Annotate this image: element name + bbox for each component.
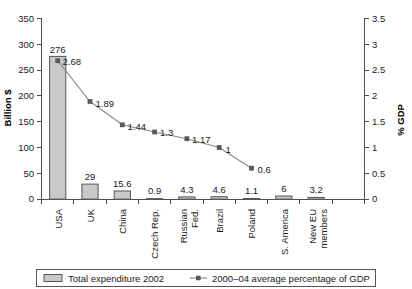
chart-figure: 350 300 250 200 150 100 50 0 Billion $ 3… [0,0,412,289]
left-axis-tick-200: 200 [18,90,34,101]
line-point-brazil[interactable] [217,145,222,150]
left-axis-tick-50: 50 [23,168,34,179]
line-label-russian-fed: 1.17 [192,134,211,145]
left-axis-tick-100: 100 [18,142,34,153]
bar-label-uk: 29 [85,171,96,182]
right-axis-tick-0: 0 [372,193,377,204]
bar-label-brazil: 4.6 [213,184,226,195]
legend-label-gdp-percentage[interactable]: 2000–04 average percentage of GDP [212,273,370,284]
line-label-usa: 2.68 [63,56,82,67]
left-axis-tick-150: 150 [18,116,34,127]
category-label-russian-fed-line1: Russian [178,209,189,243]
bar-czech-rep[interactable] [147,199,163,200]
left-axis-tick-300: 300 [18,39,34,50]
bar-label-new-eu-members: 3.2 [309,184,322,195]
right-axis-tick-1: 1 [372,142,377,153]
bar-label-s-america: 6 [281,183,286,194]
bar-label-russian-fed: 4.3 [180,184,193,195]
right-axis-tick-0-5: 0.5 [372,168,385,179]
category-label-new-eu-members-line1: New EU [307,209,318,244]
line-point-poland[interactable] [249,166,254,171]
right-axis-tick-2: 2 [372,90,377,101]
line-point-uk[interactable] [88,99,93,104]
bar-brazil[interactable] [211,197,227,199]
right-axis-tick-1-5: 1.5 [372,116,385,127]
right-axis-tick-3-5: 3.5 [372,13,385,24]
bar-label-usa: 276 [50,44,66,55]
bar-label-china: 15.6 [113,178,132,189]
bar-new-eu-members[interactable] [308,197,324,199]
legend-swatch-bar-icon [44,275,62,282]
line-point-czech-rep[interactable] [152,130,157,135]
category-label-poland: Poland [246,209,257,239]
bar-china[interactable] [114,191,130,199]
category-label-china: China [117,208,128,234]
right-axis-tick-2-5: 2.5 [372,64,385,75]
line-label-brazil: 1 [226,144,231,155]
bar-poland[interactable] [243,199,259,200]
chart-svg: 350 300 250 200 150 100 50 0 Billion $ 3… [0,0,412,289]
left-axis-tick-0: 0 [29,193,34,204]
right-axis-title: % GDP [395,104,406,136]
line-label-poland: 0.6 [258,164,271,175]
left-axis-tick-250: 250 [18,64,34,75]
bar-uk[interactable] [82,184,98,199]
line-label-czech-rep: 1.3 [160,127,173,138]
bar-usa[interactable] [50,56,66,199]
left-axis-tick-350: 350 [18,13,34,24]
bar-russian-fed[interactable] [179,197,195,199]
line-point-usa[interactable] [55,58,60,63]
line-label-china: 1.44 [128,121,147,132]
category-label-brazil: Brazil [214,209,225,233]
category-label-s-america: S. America [279,208,290,255]
line-label-uk: 1.89 [96,98,115,109]
legend-label-total-expenditure[interactable]: Total expenditure 2002 [68,273,164,284]
left-axis-title: Billion $ [2,89,13,127]
bar-label-czech-rep: 0.9 [148,185,161,196]
line-point-china[interactable] [120,122,125,127]
bar-label-poland: 1.1 [245,185,258,196]
category-label-uk: UK [85,208,96,222]
category-label-usa: USA [53,208,64,228]
category-label-czech-rep: Czech Rep. [149,209,160,259]
line-point-russian-fed[interactable] [185,136,190,141]
category-label-new-eu-members-line2: members [318,209,329,249]
right-axis-tick-3: 3 [372,39,377,50]
category-label-russian-fed-line2: Fed. [189,209,200,228]
bar-s-america[interactable] [276,196,292,199]
